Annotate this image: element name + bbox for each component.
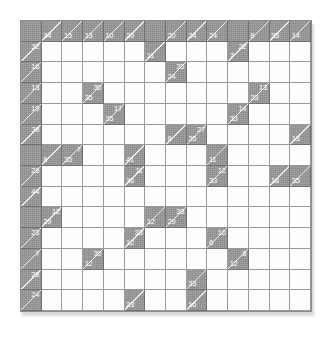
entry-cell-r1c5[interactable] — [125, 42, 146, 63]
entry-cell-r2c1[interactable] — [42, 62, 63, 83]
entry-cell-r2c10[interactable] — [228, 62, 249, 83]
entry-cell-r5c4[interactable] — [104, 125, 125, 146]
entry-cell-r8c9[interactable] — [207, 187, 228, 208]
entry-cell-r1c3[interactable] — [83, 42, 104, 63]
entry-cell-r2c11[interactable] — [249, 62, 270, 83]
entry-cell-r13c7[interactable] — [166, 290, 187, 311]
entry-cell-r4c11[interactable] — [249, 104, 270, 125]
entry-cell-r10c6[interactable] — [145, 228, 166, 249]
entry-cell-r4c8[interactable] — [187, 104, 208, 125]
entry-cell-r5c11[interactable] — [249, 125, 270, 146]
entry-cell-r7c7[interactable] — [166, 166, 187, 187]
entry-cell-r11c1[interactable] — [42, 249, 63, 270]
entry-cell-r2c3[interactable] — [83, 62, 104, 83]
entry-cell-r8c10[interactable] — [228, 187, 249, 208]
entry-cell-r4c12[interactable] — [270, 104, 291, 125]
entry-cell-r5c12[interactable] — [270, 125, 291, 146]
entry-cell-r3c12[interactable] — [270, 83, 291, 104]
entry-cell-r7c10[interactable] — [228, 166, 249, 187]
entry-cell-r11c9[interactable] — [207, 249, 228, 270]
entry-cell-r5c1[interactable] — [42, 125, 63, 146]
entry-cell-r7c4[interactable] — [104, 166, 125, 187]
entry-cell-r12c9[interactable] — [207, 270, 228, 291]
kakuro-grid[interactable]: 3415131029202424835143211227163524133035… — [20, 20, 312, 312]
entry-cell-r9c12[interactable] — [270, 207, 291, 228]
entry-cell-r13c12[interactable] — [270, 290, 291, 311]
entry-cell-r6c11[interactable] — [249, 145, 270, 166]
entry-cell-r5c2[interactable] — [62, 125, 83, 146]
entry-cell-r6c8[interactable] — [187, 145, 208, 166]
entry-cell-r11c7[interactable] — [166, 249, 187, 270]
entry-cell-r5c6[interactable] — [145, 125, 166, 146]
entry-cell-r5c3[interactable] — [83, 125, 104, 146]
entry-cell-r9c4[interactable] — [104, 207, 125, 228]
entry-cell-r2c9[interactable] — [207, 62, 228, 83]
entry-cell-r12c13[interactable] — [290, 270, 311, 291]
entry-cell-r2c2[interactable] — [62, 62, 83, 83]
entry-cell-r12c12[interactable] — [270, 270, 291, 291]
entry-cell-r4c5[interactable] — [125, 104, 146, 125]
entry-cell-r3c6[interactable] — [145, 83, 166, 104]
entry-cell-r3c10[interactable] — [228, 83, 249, 104]
entry-cell-r1c12[interactable] — [270, 42, 291, 63]
entry-cell-r10c7[interactable] — [166, 228, 187, 249]
entry-cell-r13c3[interactable] — [83, 290, 104, 311]
entry-cell-r8c11[interactable] — [249, 187, 270, 208]
entry-cell-r8c5[interactable] — [125, 187, 146, 208]
entry-cell-r10c13[interactable] — [290, 228, 311, 249]
entry-cell-r2c8[interactable] — [187, 62, 208, 83]
entry-cell-r1c7[interactable] — [166, 42, 187, 63]
entry-cell-r6c13[interactable] — [290, 145, 311, 166]
entry-cell-r5c9[interactable] — [207, 125, 228, 146]
entry-cell-r4c7[interactable] — [166, 104, 187, 125]
entry-cell-r8c4[interactable] — [104, 187, 125, 208]
entry-cell-r4c9[interactable] — [207, 104, 228, 125]
entry-cell-r11c11[interactable] — [249, 249, 270, 270]
entry-cell-r10c2[interactable] — [62, 228, 83, 249]
entry-cell-r8c7[interactable] — [166, 187, 187, 208]
entry-cell-r8c2[interactable] — [62, 187, 83, 208]
entry-cell-r12c6[interactable] — [145, 270, 166, 291]
entry-cell-r12c5[interactable] — [125, 270, 146, 291]
entry-cell-r3c9[interactable] — [207, 83, 228, 104]
entry-cell-r7c2[interactable] — [62, 166, 83, 187]
entry-cell-r3c1[interactable] — [42, 83, 63, 104]
entry-cell-r1c11[interactable] — [249, 42, 270, 63]
entry-cell-r13c4[interactable] — [104, 290, 125, 311]
entry-cell-r2c5[interactable] — [125, 62, 146, 83]
entry-cell-r1c1[interactable] — [42, 42, 63, 63]
entry-cell-r1c13[interactable] — [290, 42, 311, 63]
entry-cell-r4c2[interactable] — [62, 104, 83, 125]
entry-cell-r3c7[interactable] — [166, 83, 187, 104]
entry-cell-r13c6[interactable] — [145, 290, 166, 311]
entry-cell-r10c3[interactable] — [83, 228, 104, 249]
entry-cell-r11c5[interactable] — [125, 249, 146, 270]
entry-cell-r9c10[interactable] — [228, 207, 249, 228]
entry-cell-r12c3[interactable] — [83, 270, 104, 291]
entry-cell-r2c6[interactable] — [145, 62, 166, 83]
entry-cell-r10c8[interactable] — [187, 228, 208, 249]
entry-cell-r1c8[interactable] — [187, 42, 208, 63]
entry-cell-r10c11[interactable] — [249, 228, 270, 249]
entry-cell-r3c5[interactable] — [125, 83, 146, 104]
entry-cell-r10c12[interactable] — [270, 228, 291, 249]
entry-cell-r6c4[interactable] — [104, 145, 125, 166]
entry-cell-r12c2[interactable] — [62, 270, 83, 291]
entry-cell-r1c9[interactable] — [207, 42, 228, 63]
entry-cell-r8c3[interactable] — [83, 187, 104, 208]
entry-cell-r3c8[interactable] — [187, 83, 208, 104]
entry-cell-r13c2[interactable] — [62, 290, 83, 311]
entry-cell-r7c1[interactable] — [42, 166, 63, 187]
entry-cell-r12c7[interactable] — [166, 270, 187, 291]
entry-cell-r3c13[interactable] — [290, 83, 311, 104]
entry-cell-r13c10[interactable] — [228, 290, 249, 311]
entry-cell-r6c3[interactable] — [83, 145, 104, 166]
entry-cell-r11c4[interactable] — [104, 249, 125, 270]
entry-cell-r13c11[interactable] — [249, 290, 270, 311]
entry-cell-r4c13[interactable] — [290, 104, 311, 125]
entry-cell-r9c9[interactable] — [207, 207, 228, 228]
entry-cell-r8c1[interactable] — [42, 187, 63, 208]
entry-cell-r11c2[interactable] — [62, 249, 83, 270]
entry-cell-r2c12[interactable] — [270, 62, 291, 83]
entry-cell-r7c11[interactable] — [249, 166, 270, 187]
